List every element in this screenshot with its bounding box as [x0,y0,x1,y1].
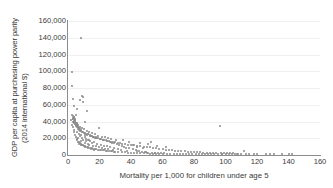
x-axis-line [67,155,321,156]
gridline [68,122,320,123]
data-point [243,150,245,152]
data-point [86,134,88,136]
data-point [72,98,74,100]
y-axis-tick-label: 160,000 [26,17,66,25]
data-point [152,147,154,149]
data-point [122,139,124,141]
gridline [68,21,320,22]
y-axis-tick-label: 140,000 [26,34,66,42]
data-point [147,143,149,145]
data-point [88,139,90,141]
data-point [180,150,182,152]
data-point [165,149,167,151]
data-point [73,116,75,118]
data-point [71,71,73,73]
data-point [142,147,144,149]
data-point [76,131,78,133]
y-axis-line [67,20,68,156]
data-point [88,131,90,133]
data-point [101,136,103,138]
data-point [136,146,138,148]
data-point [79,99,81,101]
data-point [79,126,81,128]
data-point [83,128,85,130]
data-point [97,135,99,137]
data-point [120,149,122,151]
data-point [128,141,130,143]
data-point [80,140,82,142]
data-point [133,152,135,154]
data-point [93,149,95,151]
x-axis-title: Mortality per 1,000 for children under a… [68,171,320,180]
data-point [75,114,77,116]
y-axis-tick-label: 100,000 [26,67,66,75]
data-point [82,96,84,98]
y-axis-tick-label: 60,000 [26,101,66,109]
data-point [171,149,173,151]
data-point [88,144,90,146]
data-point [82,101,84,103]
y-axis-tick-label: 0 [26,151,66,159]
data-point [82,139,84,141]
data-point [121,151,123,153]
data-point [80,134,82,136]
data-point [128,147,130,149]
gridline [68,55,320,56]
data-point [124,143,126,145]
data-point [89,135,91,137]
x-axis-tick-label: 160 [314,157,327,166]
data-point [155,147,157,149]
x-axis-tick-label: 40 [127,157,135,166]
gridline [68,71,320,72]
gridline [68,38,320,39]
data-point [139,142,141,144]
data-point [136,152,138,154]
plot-area [68,21,320,155]
data-point [126,150,128,152]
data-point [146,146,148,148]
y-axis-title-line-1: GDP per capita at purchasing power parit… [10,18,19,157]
x-axis-tick-label: 60 [158,157,166,166]
data-point [80,37,82,39]
data-point [98,127,100,129]
data-point [174,150,176,152]
data-point [115,139,117,141]
data-point [91,132,93,134]
y-axis-tick-labels: 020,00040,00060,00080,000100,000120,0001… [26,0,66,188]
gridline [68,105,320,106]
x-axis-tick-label: 20 [95,157,103,166]
data-point [84,121,86,123]
y-axis-tick-label: 80,000 [26,84,66,92]
data-point [76,108,78,110]
data-point [125,147,127,149]
x-axis-tick-label: 80 [190,157,198,166]
data-point [106,145,108,147]
data-point [130,152,132,154]
data-point [117,151,119,153]
data-point [103,145,105,147]
data-point [124,151,126,153]
data-point [92,145,94,147]
data-point [156,145,158,147]
data-point [86,130,88,132]
data-point [158,148,160,150]
data-point [118,144,120,146]
data-point [110,138,112,140]
data-point [219,125,221,127]
data-point [73,105,75,107]
data-point [132,148,134,150]
x-axis-tick-label: 100 [219,157,232,166]
data-point [127,152,129,154]
data-point [107,137,109,139]
scatter-chart: GDP per capita at purchasing power parit… [0,0,333,188]
data-point [127,144,129,146]
data-point [117,148,119,150]
x-axis-tick-labels: 020406080100120140160 [68,157,320,169]
data-point [87,147,89,149]
data-point [177,150,179,152]
y-axis-tick-label: 40,000 [26,118,66,126]
data-point [149,146,151,148]
x-axis-tick-label: 120 [251,157,264,166]
gridline [68,88,320,89]
data-point [165,146,167,148]
